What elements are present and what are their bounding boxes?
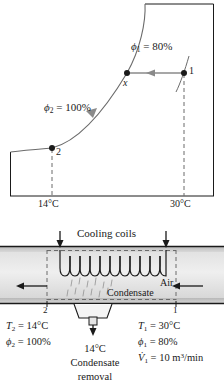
drain-caption-block: 14°C Condensate removal	[60, 342, 130, 384]
x-tick-label-left: 14°C	[38, 199, 59, 209]
station-2-label: 2	[43, 306, 48, 315]
outlet-temperature-line: T2 = 14°C	[6, 318, 51, 334]
phi1-label: ϕ1 = 80%	[131, 41, 172, 53]
air-label: Air	[160, 278, 173, 288]
drain-caption-line-2: removal	[60, 370, 130, 384]
inlet-state-block: T1 = 30°C ϕ1 = 80% V̇1 = 10 m3/min	[138, 318, 203, 366]
drain-caption-line-1: Condensate	[60, 356, 130, 370]
outlet-humidity-line: ϕ2 = 100%	[6, 334, 51, 350]
condensate-label: Condensate	[107, 288, 154, 298]
process-arrow-1-to-x-head	[146, 70, 155, 77]
condensate-funnel	[74, 304, 112, 318]
inlet-v-unit: /min	[184, 352, 203, 363]
inlet-flowrate-line: V̇1 = 10 m3/min	[138, 350, 203, 366]
state-point-2-marker	[49, 145, 55, 151]
drain-arrow-head	[90, 328, 97, 336]
phi1-value: = 80%	[140, 40, 172, 52]
phi2-label: ϕ2 = 100%	[44, 102, 91, 114]
state-point-1-label: 1	[189, 66, 194, 76]
psychrometric-chart	[0, 0, 224, 210]
inlet-humidity-line: ϕ1 = 80%	[138, 334, 203, 350]
state-point-x-label: x	[123, 78, 127, 88]
figure-container: ϕ1 = 80% ϕ2 = 100% 1 x 2 14°C 30°C	[0, 0, 224, 384]
cooling-coils-title: Cooling coils	[77, 228, 136, 239]
state-point-x-marker	[124, 70, 130, 76]
station-1-label: 1	[173, 306, 178, 315]
inlet-v-value: = 10 m	[148, 352, 180, 363]
drain-temperature: 14°C	[60, 342, 130, 356]
state-point-2-label: 2	[56, 147, 61, 157]
condensate-drain-pipe	[89, 317, 97, 325]
outlet-t-value: = 14°C	[15, 320, 48, 331]
inlet-t-value: = 30°C	[147, 320, 180, 331]
outlet-phi-value: = 100%	[15, 336, 51, 347]
outlet-state-block: T2 = 14°C ϕ2 = 100%	[6, 318, 51, 350]
state-point-1-marker	[181, 70, 187, 76]
x-tick-label-right: 30°C	[170, 199, 191, 209]
inlet-phi-value: = 80%	[147, 336, 177, 347]
phi2-value: = 100%	[53, 101, 90, 113]
inlet-temperature-line: T1 = 30°C	[138, 318, 203, 334]
